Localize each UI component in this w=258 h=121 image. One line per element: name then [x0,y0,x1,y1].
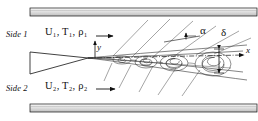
stream1-conditions-label: U₁, T₁, ρ₁ [45,27,88,38]
alpha-angle-label: α [200,25,206,36]
bottom-wall [30,104,257,112]
mach-waves-lower [104,63,200,96]
top-wall [30,8,257,16]
side2-label: Side 2 [6,84,28,93]
side1-label: Side 1 [6,30,28,39]
stream2-conditions-label: U₂, T₂, ρ₂ [45,81,88,92]
mach-waves-upper [113,19,251,58]
y-axis-label: y [97,43,101,52]
figure-canvas [0,0,258,121]
splitter-plate [30,52,88,74]
alpha-angle-indicator [164,33,200,42]
mixing-layer-figure: Side 1 Side 2 U₁, T₁, ρ₁ U₂, T₂, ρ₂ y x … [0,0,258,121]
delta-thickness-label: δ [221,27,226,38]
x-axis-label: x [246,46,250,55]
